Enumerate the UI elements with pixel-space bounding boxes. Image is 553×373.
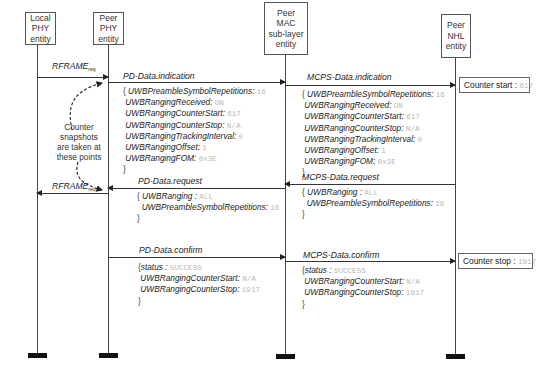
param-key: UWBRanging [142, 191, 192, 201]
pd-data-confirm-label: PD-Data.confirm [139, 245, 203, 255]
pd-data-request-params: { UWBRanging : ALL UWBPreambleSymbolRepe… [137, 191, 279, 224]
pd-data-request-label: PD-Data.request [138, 176, 202, 186]
annotation-line: are taken at [50, 142, 108, 152]
mcps-data-request-label: MCPS-Data.request [302, 172, 379, 182]
open-brace: { [137, 191, 140, 201]
mcps-data-confirm-arrow [285, 261, 455, 262]
pd-data-confirm-params: {status : SUCCESS UWBRangingCounterStart… [138, 262, 260, 306]
param-value: 16 [435, 200, 444, 208]
param-value: SUCCESS [334, 267, 366, 275]
param-key: UWBRangingCounterStart [304, 276, 401, 286]
param-key: UWBPreambleSymbolRepetitions [307, 198, 431, 208]
param-key: UWBPreambleSymbolRepetitions [142, 202, 266, 212]
close-brace: } [302, 299, 305, 309]
annotation-line: these points [50, 152, 108, 162]
param-key: status [305, 265, 327, 275]
param-value: 1917 [406, 289, 424, 297]
message-subscript: req [88, 186, 95, 192]
param-key: UWBRangingCounterStop [140, 284, 237, 294]
param-key: UWBRangingCounterStart [140, 273, 237, 283]
mcps-data-confirm-label: MCPS-Data.confirm [303, 250, 379, 260]
close-brace: } [138, 296, 141, 306]
annotation-line: Counter [50, 122, 108, 132]
close-brace: } [302, 209, 305, 219]
param-key: UWBRanging [307, 187, 357, 197]
close-brace: } [137, 213, 140, 223]
annotation-line: snapshots [50, 132, 108, 142]
counter-snapshot-annotation: Counter snapshots are taken at these poi… [50, 122, 108, 162]
param-value: SUCCESS [170, 264, 202, 272]
param-value: ALL [199, 193, 213, 201]
rframe-req-out-arrow [37, 193, 108, 194]
param-value: N/A [242, 275, 256, 283]
mcps-data-request-params: { UWBRanging : ALL UWBPreambleSymbolRepe… [302, 187, 444, 220]
pd-data-confirm-arrowhead [270, 257, 285, 258]
param-key: UWBRangingCounterStop [304, 287, 401, 297]
pd-data-request-arrow [108, 188, 285, 189]
mcps-data-confirm-params: {status : SUCCESS UWBRangingCounterStart… [302, 265, 424, 309]
counter-stop-note: Counter stop : 1917 [458, 253, 533, 269]
param-value: ALL [364, 189, 378, 197]
open-brace: { [302, 187, 305, 197]
counter-stop-label: Counter stop : [463, 256, 516, 266]
rframe-req-out-label: RFRAMEreq [52, 181, 96, 192]
param-value: N/A [406, 278, 420, 286]
param-key: status [141, 262, 163, 272]
mcps-data-request-arrow [285, 184, 455, 185]
message-label: RFRAME [52, 181, 88, 191]
counter-stop-value: 1917 [518, 258, 536, 266]
pd-data-confirm-arrow [108, 257, 285, 258]
param-value: 1917 [242, 286, 260, 294]
param-value: 16 [270, 204, 279, 212]
